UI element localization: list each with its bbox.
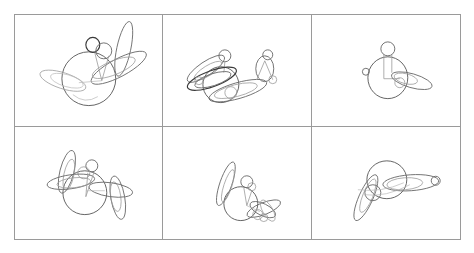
sketch-figure-canvas [0,0,474,253]
sketch-panel-1-drawing [15,15,163,127]
sketch-panel-1 [14,14,164,128]
lower-arc [72,94,97,100]
sec-head-circle [263,49,273,59]
right-wing-ellipse [87,45,150,90]
neck-circle [77,167,89,179]
sketch-panel-5 [162,126,312,240]
panel-grid [14,14,460,239]
head-circle [85,160,97,172]
tall-blade-ellipse [213,160,239,207]
sketch-panel-3 [311,14,461,128]
sec-body-ellipse [256,55,274,81]
tall-blade-inner [219,168,237,203]
torso-line-right [247,191,252,206]
torso-line-left [244,188,247,206]
sketch-panel-4 [14,126,164,240]
leg-ellipse [349,172,382,223]
mid-wing-ellipse [185,62,239,95]
head-circle [219,49,231,61]
sketch-panel-6 [311,126,461,240]
sketch-panel-3-drawing [312,15,460,127]
sketch-panel-2-drawing [163,15,311,127]
head-circle [381,41,395,55]
body-circle [62,171,106,215]
long-arm-ellipse [382,173,439,193]
sketch-panel-4-drawing [15,127,163,239]
right-blade-ellipse [111,20,136,77]
left-wing-inner [56,176,91,189]
arm-ellipse [390,68,434,93]
upper-wing-inner [192,58,224,83]
head-circle [85,37,99,52]
sketch-panel-5-drawing [163,127,311,239]
sketch-panel-2 [162,14,312,128]
hand-circle [395,77,405,87]
head-circle [241,176,253,188]
sec-leg-left-line [257,60,265,79]
hip-circle [225,86,237,98]
head-inner-circle [248,183,256,191]
sec-leg-right-line [265,60,273,79]
sketch-panel-6-drawing [312,127,460,239]
